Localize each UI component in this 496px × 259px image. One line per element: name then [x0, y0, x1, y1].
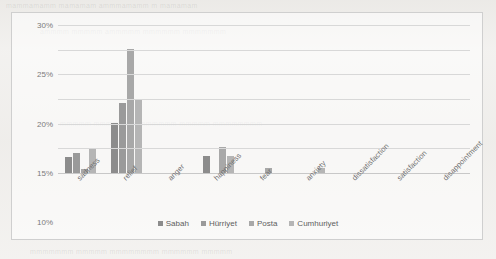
y-axis-tick-label: 25% [37, 70, 53, 79]
gridline: 10% [58, 124, 470, 125]
legend-label: Cumhuriyet [297, 219, 338, 228]
gridline: 5% [58, 148, 470, 149]
legend-swatch-icon [249, 221, 254, 226]
legend-swatch-icon [201, 221, 206, 226]
chart-legend: SabahHürriyetPostaCumhuriyet [12, 219, 484, 228]
bar [135, 99, 142, 173]
y-axis-tick-label: 30% [37, 21, 53, 30]
gridline: 30% [58, 25, 470, 26]
y-axis-tick-label: 15% [37, 169, 53, 178]
bar [65, 157, 72, 173]
gridline: 25% [58, 50, 470, 51]
legend-swatch-icon [158, 221, 163, 226]
legend-item[interactable]: Posta [249, 219, 277, 228]
legend-label: Sabah [166, 219, 189, 228]
bar [119, 103, 126, 173]
legend-swatch-icon [289, 221, 294, 226]
legend-item[interactable]: Cumhuriyet [289, 219, 338, 228]
bar [203, 156, 210, 173]
gridline: 15% [58, 99, 470, 100]
legend-item[interactable]: Sabah [158, 219, 189, 228]
y-axis-tick-label: 20% [37, 119, 53, 128]
chart-container: 0%5%10%15%20%25%30% sadnessreliefangerha… [11, 12, 483, 240]
bar [127, 49, 134, 173]
legend-label: Hürriyet [209, 219, 237, 228]
legend-label: Posta [257, 219, 277, 228]
plot-area: 0%5%10%15%20%25%30% [58, 25, 470, 173]
gridline: 20% [58, 74, 470, 75]
legend-item[interactable]: Hürriyet [201, 219, 237, 228]
